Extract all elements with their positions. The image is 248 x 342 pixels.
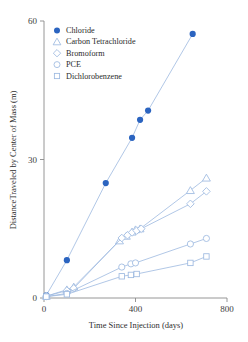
data-point [204,254,209,259]
y-tick-label: 0 [33,293,38,303]
data-point [202,174,210,181]
legend-marker-icon [54,27,60,33]
data-point [203,235,209,241]
data-point [187,241,193,247]
series-bromoform [43,188,211,300]
data-point [187,200,195,208]
legend-marker-icon [54,62,60,68]
legend-marker-icon [54,73,59,78]
data-point [137,117,143,123]
y-axis-title: DistanceTraveled by Center of Mass (m) [8,90,18,229]
axes: 040080003060 [28,16,234,314]
data-point [134,271,139,276]
legend-item-label: PCE [66,60,81,69]
legend-item-dichlorobenzene: Dichlorobenzene [54,72,122,81]
data-point [188,260,193,265]
legend-marker-icon [53,38,61,45]
data-point [64,257,70,263]
legend-item-label: Dichlorobenzene [66,72,122,81]
chart-legend: ChlorideCarbon TetrachlorideBromoformPCE… [53,26,136,81]
x-tick-label: 800 [220,304,234,314]
legend-item-pce: PCE [54,60,81,69]
y-tick-label: 60 [28,16,38,26]
data-point [186,187,194,194]
legend-item-label: Carbon Tetrachloride [66,37,136,46]
legend-item-label: Chloride [66,26,95,35]
data-point [103,180,109,186]
data-point [132,260,138,266]
data-point [203,188,211,196]
y-tick-label: 30 [28,155,38,165]
legend-item-label: Bromoform [66,49,105,58]
legend-item-bromoform: Bromoform [53,49,105,58]
data-point [145,107,151,113]
chart-container: 040080003060 ChlorideCarbon Tetrachlorid… [0,0,248,342]
distance-vs-time-scatter-chart: 040080003060 ChlorideCarbon Tetrachlorid… [0,0,248,342]
x-tick-label: 0 [42,304,47,314]
data-point [44,294,49,299]
series-line [46,191,206,296]
legend-item-carbon-tetrachloride: Carbon Tetrachloride [53,37,136,46]
data-point [119,274,124,279]
x-axis-title: Time Since Injection (days) [89,320,184,330]
data-point [190,31,196,37]
data-point [129,135,135,141]
legend-marker-icon [53,50,60,57]
data-point [119,264,125,270]
x-tick-label: 400 [129,304,143,314]
legend-item-chloride: Chloride [54,26,95,35]
data-point [128,272,133,277]
data-point [64,292,69,297]
